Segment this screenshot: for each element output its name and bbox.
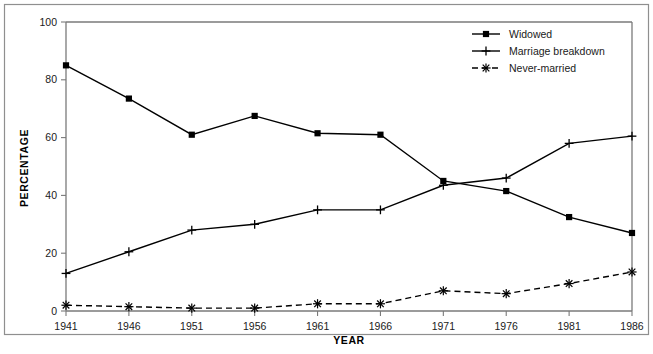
x-axis-title: YEAR bbox=[333, 334, 365, 346]
legend-label: Widowed bbox=[509, 28, 552, 40]
data-point-plus-marker bbox=[250, 220, 259, 229]
series-never-married bbox=[61, 267, 636, 312]
data-point-square-marker bbox=[314, 130, 320, 136]
line-chart: 020406080100 194119461951195619611966197… bbox=[0, 0, 653, 354]
x-tick-label: 1956 bbox=[243, 320, 267, 332]
data-point-plus-marker bbox=[628, 132, 637, 141]
data-point-star-marker bbox=[250, 304, 259, 313]
data-point-star-marker bbox=[565, 279, 574, 288]
data-point-plus-marker bbox=[313, 205, 322, 214]
y-tick-label: 20 bbox=[45, 247, 57, 259]
x-tick-label: 1981 bbox=[557, 320, 581, 332]
series-line bbox=[66, 136, 632, 273]
data-point-star-marker bbox=[439, 286, 448, 295]
data-point-star-marker bbox=[187, 304, 196, 313]
data-point-star-marker bbox=[502, 289, 511, 298]
data-point-star-marker bbox=[481, 63, 490, 72]
x-tick-label: 1986 bbox=[620, 320, 644, 332]
data-point-star-marker bbox=[376, 299, 385, 308]
y-tick-label: 100 bbox=[39, 16, 57, 28]
legend-item-marriage-breakdown: Marriage breakdown bbox=[472, 45, 605, 57]
legend-label: Never-married bbox=[509, 62, 576, 74]
y-tick-label: 0 bbox=[51, 305, 57, 317]
series-line bbox=[66, 272, 632, 308]
legend: WidowedMarriage breakdownNever-married bbox=[472, 28, 605, 74]
series-marriage-breakdown bbox=[62, 132, 637, 278]
data-point-plus-marker bbox=[124, 247, 133, 256]
x-tick-label: 1966 bbox=[369, 320, 393, 332]
data-point-square-marker bbox=[503, 188, 509, 194]
data-point-star-marker bbox=[61, 301, 70, 310]
x-tick-label: 1961 bbox=[306, 320, 330, 332]
y-tick-label: 60 bbox=[45, 131, 57, 143]
data-point-plus-marker bbox=[187, 226, 196, 235]
data-point-plus-marker bbox=[482, 47, 491, 56]
data-point-plus-marker bbox=[502, 174, 511, 183]
data-point-square-marker bbox=[629, 230, 635, 236]
data-point-plus-marker bbox=[565, 139, 574, 148]
y-tick-group: 020406080100 bbox=[39, 16, 66, 317]
x-tick-group: 1941194619511956196119661971197619811986 bbox=[54, 311, 644, 332]
data-point-plus-marker bbox=[376, 205, 385, 214]
data-point-star-marker bbox=[627, 267, 636, 276]
x-tick-label: 1941 bbox=[54, 320, 78, 332]
data-point-square-marker bbox=[189, 132, 195, 138]
x-tick-label: 1971 bbox=[432, 320, 456, 332]
y-axis-title: PERCENTAGE bbox=[18, 129, 30, 207]
legend-label: Marriage breakdown bbox=[509, 45, 605, 57]
series-line bbox=[66, 65, 632, 233]
data-point-plus-marker bbox=[62, 269, 71, 278]
data-point-square-marker bbox=[483, 31, 489, 37]
x-tick-label: 1951 bbox=[180, 320, 204, 332]
data-point-star-marker bbox=[124, 302, 133, 311]
data-point-square-marker bbox=[377, 132, 383, 138]
y-tick-label: 80 bbox=[45, 73, 57, 85]
legend-item-widowed: Widowed bbox=[472, 28, 552, 40]
data-point-square-marker bbox=[126, 95, 132, 101]
series-group bbox=[61, 62, 636, 312]
chart-page: 020406080100 194119461951195619611966197… bbox=[0, 0, 653, 354]
y-tick-label: 40 bbox=[45, 189, 57, 201]
x-tick-label: 1976 bbox=[495, 320, 519, 332]
data-point-square-marker bbox=[252, 113, 258, 119]
data-point-square-marker bbox=[566, 214, 572, 220]
data-point-square-marker bbox=[63, 62, 69, 68]
x-tick-label: 1946 bbox=[117, 320, 141, 332]
data-point-star-marker bbox=[313, 299, 322, 308]
legend-item-never-married: Never-married bbox=[472, 62, 576, 74]
